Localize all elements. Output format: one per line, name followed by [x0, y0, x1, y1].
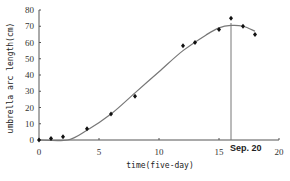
x-tick-label: 10: [155, 147, 165, 157]
annotation-label: Sep. 20: [230, 143, 262, 153]
x-axis-label: time(five-day): [126, 161, 193, 170]
data-point-marker: [241, 24, 245, 29]
y-tick-label: 50: [25, 54, 35, 64]
y-tick-label: 80: [25, 5, 35, 15]
fitted-curve-path: [39, 25, 255, 140]
fitted-curve: [39, 25, 255, 140]
sep-20-marker-line: Sep. 20: [230, 23, 262, 153]
y-tick-label: 60: [25, 38, 35, 48]
data-point-marker: [253, 32, 257, 37]
data-point-marker: [181, 43, 185, 48]
x-tick-label: 0: [37, 147, 42, 157]
axes: 0102030405060708005101520: [25, 5, 284, 157]
data-point-marker: [37, 138, 41, 143]
data-point-marker: [229, 16, 233, 21]
y-tick-label: 10: [25, 119, 35, 129]
y-tick-label: 20: [25, 103, 35, 113]
x-tick-label: 5: [97, 147, 102, 157]
y-tick-label: 30: [25, 86, 35, 96]
y-tick-label: 0: [30, 135, 35, 145]
data-point-marker: [61, 134, 65, 139]
data-point-marker: [85, 126, 89, 131]
growth-chart: 0102030405060708005101520 Sep. 20 time(f…: [0, 0, 290, 181]
x-tick-label: 15: [215, 147, 225, 157]
x-tick-label: 20: [275, 147, 285, 157]
data-points: [37, 16, 257, 143]
y-tick-label: 40: [25, 70, 35, 80]
y-tick-label: 70: [25, 21, 35, 31]
y-axis-label: umbrella arc length(cm): [6, 23, 15, 134]
